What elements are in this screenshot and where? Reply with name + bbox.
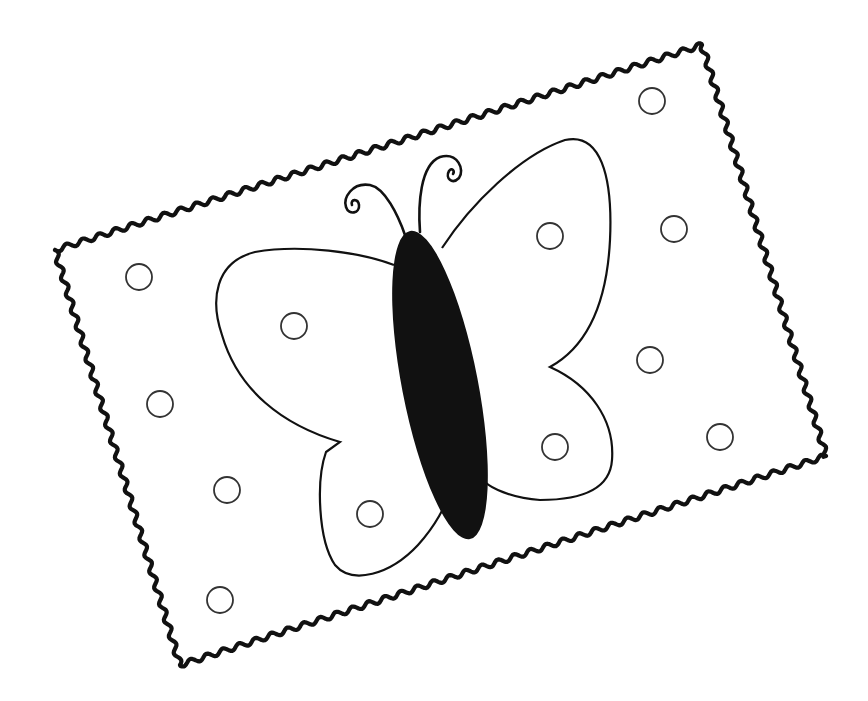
- polka-dot-circle: [639, 88, 665, 114]
- polka-dot-circle: [281, 313, 307, 339]
- polka-dot-circle: [542, 434, 568, 460]
- polka-dot-circle: [147, 391, 173, 417]
- polka-dot-circle: [637, 347, 663, 373]
- polka-dot-circle: [126, 264, 152, 290]
- polka-dot-circle: [707, 424, 733, 450]
- coloring-page-canvas: [0, 0, 868, 701]
- polka-dot-circle: [357, 501, 383, 527]
- butterfly-body: [373, 224, 508, 547]
- polka-dot-circle: [214, 477, 240, 503]
- butterfly-illustration: [0, 0, 868, 701]
- left-antenna: [345, 185, 405, 235]
- polka-dot-circle: [207, 587, 233, 613]
- polka-dot-circle: [537, 223, 563, 249]
- polka-dot-circle: [661, 216, 687, 242]
- right-antenna: [419, 156, 461, 232]
